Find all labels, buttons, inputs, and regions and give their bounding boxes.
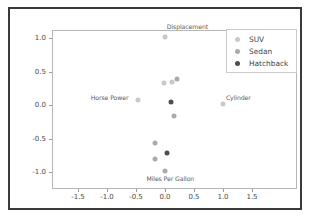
x-axis-tick-label: -1.5 (71, 193, 85, 201)
x-axis-tick-label: -0.5 (129, 193, 143, 201)
legend-marker-icon (235, 61, 240, 66)
y-axis-tick (49, 139, 52, 140)
y-axis-tick (49, 105, 52, 106)
y-axis-tick (49, 172, 52, 173)
x-axis-tick (78, 189, 79, 192)
data-point-suv[interactable] (136, 97, 141, 102)
data-point-suv[interactable] (161, 80, 166, 85)
figure-border: -1.5-1.0-0.50.00.51.01.51.00.50.0-0.5-1.… (8, 7, 302, 210)
scatter-plot-figure: -1.5-1.0-0.50.00.51.01.51.00.50.0-0.5-1.… (0, 0, 310, 217)
legend-item-hatchback[interactable]: Hatchback (231, 57, 292, 69)
annotation-displacement: Displacement (167, 23, 208, 30)
y-axis-tick-label: -1.0 (32, 168, 46, 176)
x-axis-tick (252, 189, 253, 192)
y-axis-tick-label: -0.5 (32, 135, 46, 143)
x-axis-tick (165, 189, 166, 192)
data-point-suv[interactable] (221, 102, 226, 107)
data-point-sedan[interactable] (171, 114, 176, 119)
legend-item-suv[interactable]: SUV (231, 33, 292, 45)
data-point-sedan[interactable] (163, 168, 168, 173)
x-axis-tick-label: -1.0 (100, 193, 114, 201)
data-point-hatchback[interactable] (168, 99, 173, 104)
legend-label: Hatchback (249, 59, 288, 68)
annotation-miles-per-gallon: Miles Per Gallon (146, 175, 194, 182)
legend-box[interactable]: SUVSedanHatchback (226, 29, 297, 73)
data-point-suv[interactable] (169, 80, 174, 85)
x-axis-tick-label: 1.5 (246, 193, 257, 201)
x-axis-tick (223, 189, 224, 192)
data-point-sedan[interactable] (175, 76, 180, 81)
legend-label: SUV (249, 35, 264, 44)
legend-label: Sedan (249, 47, 272, 56)
legend-marker-icon (235, 37, 240, 42)
annotation-horse-power: Horse Power (91, 94, 129, 101)
legend-item-sedan[interactable]: Sedan (231, 45, 292, 57)
y-axis-tick (49, 38, 52, 39)
y-axis-tick (49, 72, 52, 73)
y-axis-tick-label: 0.0 (35, 101, 46, 109)
annotation-cylinder: Cylinder (226, 94, 251, 101)
x-axis-tick (194, 189, 195, 192)
data-point-hatchback[interactable] (164, 151, 169, 156)
x-axis-tick-label: 1.0 (217, 193, 228, 201)
data-point-sedan[interactable] (152, 157, 157, 162)
x-axis-tick (136, 189, 137, 192)
y-axis-tick-label: 0.5 (35, 68, 46, 76)
legend-marker-icon (235, 49, 240, 54)
x-axis-tick (107, 189, 108, 192)
data-point-suv[interactable] (163, 35, 168, 40)
x-axis-tick-label: 0.5 (188, 193, 199, 201)
y-axis-tick-label: 1.0 (35, 34, 46, 42)
x-axis-tick-label: 0.0 (159, 193, 170, 201)
data-point-sedan[interactable] (153, 141, 158, 146)
